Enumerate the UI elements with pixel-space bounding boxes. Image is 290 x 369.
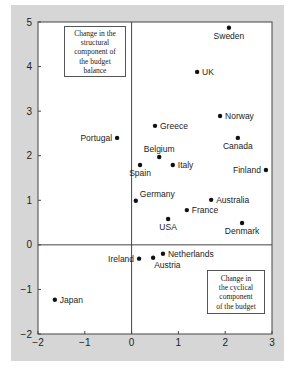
point-label: France bbox=[192, 205, 219, 215]
x-tick-label: −1 bbox=[79, 337, 91, 348]
point-label: Germany bbox=[140, 189, 176, 199]
note-line: Change in the bbox=[68, 29, 122, 38]
x-tick-label: 0 bbox=[129, 337, 135, 348]
x-tick-label: −2 bbox=[32, 337, 44, 348]
point-label: Denmark bbox=[225, 226, 260, 236]
note-line: structural bbox=[68, 38, 122, 47]
point-label: Ireland bbox=[108, 254, 134, 264]
point-marker bbox=[195, 70, 199, 74]
point-marker bbox=[138, 163, 142, 167]
point-marker bbox=[134, 199, 138, 203]
point-label: Canada bbox=[223, 141, 253, 151]
point-label: Spain bbox=[129, 168, 151, 178]
point-label: Belgium bbox=[144, 144, 175, 154]
point-marker bbox=[166, 217, 170, 221]
point-marker bbox=[115, 136, 119, 140]
note-line: component bbox=[211, 292, 261, 301]
y-tick-label: 5 bbox=[26, 17, 32, 28]
point-label: Austria bbox=[154, 260, 181, 270]
y-tick-label: 0 bbox=[26, 239, 32, 250]
note-line: balance bbox=[68, 66, 122, 75]
note-line: component of bbox=[68, 47, 122, 56]
x-tick-label: 1 bbox=[176, 337, 182, 348]
point-label: Greece bbox=[160, 121, 188, 131]
note-line: Change in bbox=[211, 274, 261, 283]
point-marker bbox=[240, 221, 244, 225]
point-marker bbox=[53, 297, 57, 301]
point-marker bbox=[264, 168, 268, 172]
point-marker bbox=[236, 136, 240, 140]
point-marker bbox=[171, 163, 175, 167]
point-label: Norway bbox=[225, 111, 255, 121]
point-label: Australia bbox=[216, 195, 249, 205]
point-label: Finland bbox=[233, 165, 261, 175]
point-marker bbox=[157, 155, 161, 159]
y-tick-label: 3 bbox=[26, 106, 32, 117]
point-label: Netherlands bbox=[168, 249, 214, 259]
y-tick-label: 1 bbox=[26, 195, 32, 206]
x-tick-label: 3 bbox=[269, 337, 275, 348]
point-label: USA bbox=[159, 222, 177, 232]
point-label: Italy bbox=[178, 160, 194, 170]
y-tick-label: −2 bbox=[21, 329, 33, 340]
point-marker bbox=[161, 252, 165, 256]
note-line: of the budget bbox=[211, 302, 261, 311]
y-tick-label: 4 bbox=[26, 61, 32, 72]
note-line: the cyclical bbox=[211, 283, 261, 292]
point-marker bbox=[209, 198, 213, 202]
point-marker bbox=[137, 256, 141, 260]
point-marker bbox=[227, 26, 231, 30]
x-axis-annotation-box: Change in the cyclical component of the … bbox=[207, 270, 265, 314]
point-marker bbox=[153, 124, 157, 128]
note-line: the budget bbox=[68, 57, 122, 66]
point-marker bbox=[218, 114, 222, 118]
x-tick-label: 2 bbox=[222, 337, 228, 348]
data-point: Netherlands bbox=[161, 249, 214, 259]
y-tick-label: −1 bbox=[21, 284, 33, 295]
point-label: Portugal bbox=[80, 133, 112, 143]
y-tick-label: 2 bbox=[26, 150, 32, 161]
point-label: Japan bbox=[60, 295, 83, 305]
point-label: Sweden bbox=[214, 31, 245, 41]
y-axis-annotation-box: Change in the structural component of th… bbox=[64, 26, 126, 77]
point-marker bbox=[185, 208, 189, 212]
point-label: UK bbox=[202, 67, 214, 77]
